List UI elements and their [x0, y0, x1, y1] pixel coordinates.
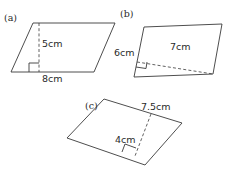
height-label-a: 5cm	[42, 38, 63, 49]
figure-b: (b) 6cm 7cm	[114, 8, 222, 77]
figure-a: (a) 5cm 8cm	[4, 12, 115, 84]
right-angle-marker-c	[122, 144, 136, 152]
height-label-c: 4cm	[115, 134, 136, 145]
base-label-c: 7.5cm	[141, 101, 171, 112]
right-angle-marker-a	[29, 63, 39, 72]
base-label-a: 8cm	[42, 73, 63, 84]
height-line-c	[135, 114, 151, 156]
figure-a-label: (a)	[4, 12, 17, 23]
figure-c-label: (c)	[85, 100, 98, 111]
parallelogram-diagrams: (a) 5cm 8cm (b) 6cm 7cm (c) 7.5cm 4cm	[0, 0, 228, 178]
side-label-b: 6cm	[114, 47, 135, 58]
height-line-b	[137, 62, 213, 74]
right-angle-marker-b	[136, 62, 147, 69]
figure-b-label: (b)	[120, 8, 134, 19]
parallelogram-a	[11, 23, 115, 72]
height-label-b: 7cm	[170, 41, 191, 52]
figure-c: (c) 7.5cm 4cm	[67, 99, 182, 165]
